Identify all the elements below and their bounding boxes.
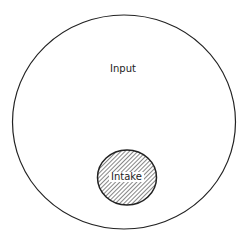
- intake-label: Intake: [109, 172, 144, 182]
- input-label: Input: [110, 64, 136, 74]
- venn-diagram: [0, 0, 244, 243]
